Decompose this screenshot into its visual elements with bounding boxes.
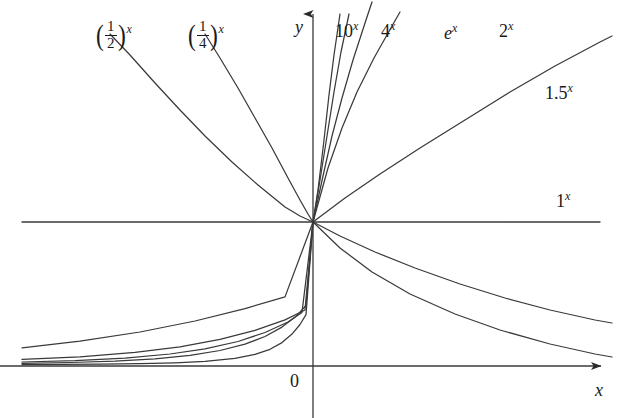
x-axis-label: x — [595, 381, 603, 399]
exponent-x: x — [127, 22, 132, 36]
curve-1-5x — [22, 36, 612, 348]
exponent-x: x — [565, 189, 570, 203]
base-four: 4 — [381, 21, 390, 41]
curve-label-e: ex — [444, 24, 457, 42]
exponent-x: x — [452, 21, 457, 35]
fraction-one-half: 12 — [105, 19, 117, 52]
fraction-numerator: 1 — [197, 19, 209, 35]
curve-label-one-point-five: 1.5x — [545, 84, 573, 102]
fraction-denominator: 2 — [105, 35, 117, 52]
base-ten: 10 — [335, 21, 353, 41]
right-paren: ) — [210, 20, 218, 50]
left-paren: ( — [188, 20, 196, 50]
curve-10x — [22, 14, 340, 365]
base-one: 1 — [556, 191, 565, 211]
curve-label-quarter: (14)x — [187, 20, 224, 53]
curve-label-half: (12)x — [95, 20, 132, 53]
exponential-functions-figure: (12)x (14)x 10x 4x ex 2x 1.5x 1x y x 0 — [0, 0, 621, 418]
base-e: e — [444, 23, 452, 43]
exponent-x: x — [568, 81, 573, 95]
exponent-x: x — [508, 19, 513, 33]
origin-label: 0 — [290, 372, 299, 390]
fraction-one-quarter: 14 — [197, 19, 209, 52]
curve-half-x — [110, 34, 612, 323]
fraction-denominator: 4 — [197, 35, 209, 52]
y-axis-label: y — [295, 18, 303, 36]
base-two: 2 — [499, 21, 508, 41]
curve-4x — [22, 14, 349, 363]
left-paren: ( — [96, 20, 104, 50]
exponent-x: x — [219, 22, 224, 36]
curve-label-ten: 10x — [335, 22, 358, 40]
fraction-numerator: 1 — [105, 19, 117, 35]
exponent-x: x — [353, 19, 358, 33]
exponent-x: x — [390, 19, 395, 33]
right-paren: ) — [118, 20, 126, 50]
curve-label-one: 1x — [556, 192, 570, 210]
curve-2x — [22, 12, 400, 359]
base-one-point-five: 1.5 — [545, 83, 568, 103]
exponential-curves-plot — [0, 0, 621, 418]
curve-label-two: 2x — [499, 22, 513, 40]
curve-label-four: 4x — [381, 22, 395, 40]
